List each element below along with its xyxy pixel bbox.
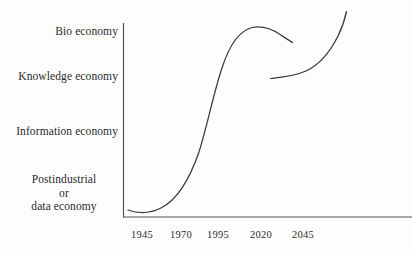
s-curve-economy-chart: Bio economy Knowledge economy Informatio… [0, 0, 412, 254]
y-axis-label-postindustrial-line1: Postindustrial [12, 173, 116, 187]
y-axis-label-bio-economy: Bio economy [55, 25, 118, 39]
x-axis-tick-label-1970: 1970 [161, 229, 201, 241]
y-axis-label-information-economy: Information economy [16, 125, 118, 139]
x-axis-tick-label-1945: 1945 [122, 229, 162, 241]
x-axis-tick-label-1995: 1995 [198, 229, 238, 241]
y-axis-label-postindustrial-data-economy: Postindustrial or data economy [12, 173, 116, 214]
x-axis-tick-label-2045: 2045 [283, 229, 323, 241]
first-s-curve-path [128, 27, 293, 212]
y-axis-label-postindustrial-line3: data economy [12, 200, 116, 214]
x-axis-tick-label-2020: 2020 [241, 229, 281, 241]
y-axis-label-postindustrial-line2: or [12, 187, 116, 201]
second-s-curve-path [271, 12, 347, 79]
y-axis-label-knowledge-economy: Knowledge economy [18, 70, 118, 84]
